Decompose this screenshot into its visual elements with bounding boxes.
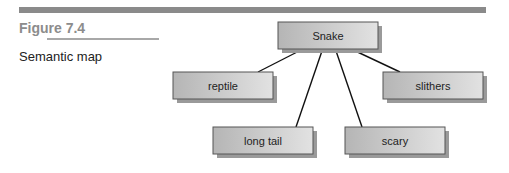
semantic-map-diagram: Snakereptileslitherslong tailscary <box>0 0 509 173</box>
edge-snake-scary <box>335 48 362 127</box>
edge-snake-long-tail <box>296 48 323 127</box>
node-scary: scary <box>345 127 449 158</box>
node-slithers: slithers <box>383 72 487 103</box>
node-reptile: reptile <box>173 72 277 103</box>
node-label: scary <box>382 135 409 147</box>
node-label: Snake <box>312 30 343 42</box>
node-label: long tail <box>244 135 282 147</box>
node-snake: Snake <box>278 22 382 53</box>
node-label: slithers <box>416 80 451 92</box>
node-long-tail: long tail <box>213 127 317 158</box>
node-label: reptile <box>208 80 238 92</box>
